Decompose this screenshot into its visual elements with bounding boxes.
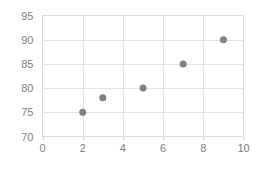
x-tick-label: 6 (160, 142, 166, 154)
data-point (99, 94, 106, 101)
x-tick-label: 10 (237, 142, 249, 154)
data-point (220, 36, 227, 43)
y-tick-label: 80 (21, 82, 33, 94)
plot-area (43, 16, 244, 137)
y-tick-label: 75 (21, 106, 33, 118)
data-point (140, 85, 147, 92)
y-tick-label: 85 (21, 58, 33, 70)
data-point (79, 109, 86, 116)
scatter-chart: 707580859095 0246810 (0, 0, 261, 170)
x-tick-label: 2 (80, 142, 86, 154)
y-tick-label: 95 (21, 10, 33, 22)
x-tick-label: 0 (39, 142, 45, 154)
y-tick-label: 70 (21, 131, 33, 143)
y-tick-label: 90 (21, 34, 33, 46)
data-point (180, 60, 187, 67)
chart-canvas: 707580859095 0246810 (0, 0, 261, 170)
x-tick-label: 8 (200, 142, 206, 154)
x-tick-label: 4 (120, 142, 126, 154)
